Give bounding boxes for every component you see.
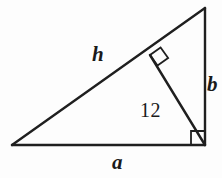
hypotenuse-label: h [92, 44, 104, 65]
altitude-foot-right-angle-marker [150, 47, 168, 65]
vertical-leg-label: b [207, 74, 218, 95]
triangle-diagram-svg [0, 0, 222, 178]
hypotenuse-line [12, 8, 205, 145]
altitude-length-label: 12 [140, 100, 161, 120]
triangle-figure: h b a 12 [0, 0, 222, 178]
horizontal-leg-label: a [112, 152, 123, 173]
